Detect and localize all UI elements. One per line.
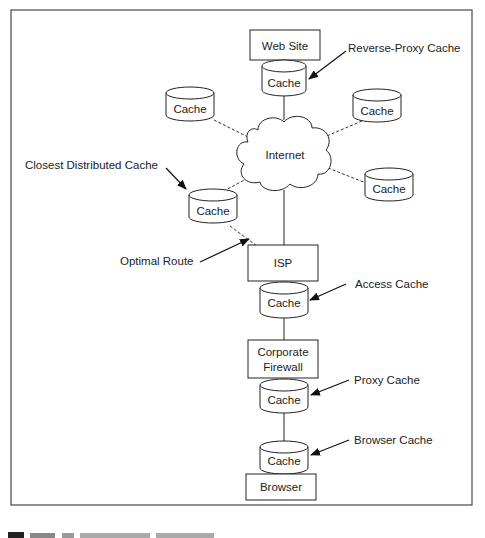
- peer-cache-top-left-icon: Cache: [166, 87, 214, 121]
- access-cache-label: Cache: [267, 297, 300, 309]
- corporate-firewall-label-line2: Firewall: [263, 361, 303, 373]
- closest-distributed-cache-icon: Cache: [189, 189, 237, 223]
- closest-cache-label: Cache: [196, 205, 229, 217]
- isp-label: ISP: [274, 257, 293, 269]
- figure-caption: [8, 532, 214, 538]
- corporate-firewall-label-line1: Corporate: [257, 346, 308, 358]
- figure-frame: [11, 10, 472, 505]
- internet-label: Internet: [266, 149, 306, 161]
- peer-cache-right-label: Cache: [372, 183, 405, 195]
- proxy-cache-annotation: Proxy Cache: [354, 374, 420, 386]
- reverse-proxy-cache-annotation: Reverse-Proxy Cache: [348, 42, 460, 54]
- caching-diagram: Web Site Cache Cache Cache Cache Cache I…: [0, 0, 485, 538]
- browser-cache-label: Cache: [267, 455, 300, 467]
- peer-cache-top-right-label: Cache: [360, 105, 393, 117]
- browser-cache-annotation: Browser Cache: [354, 434, 433, 446]
- peer-cache-right-icon: Cache: [365, 168, 413, 201]
- web-site-node: Web Site: [250, 30, 320, 60]
- browser-label: Browser: [260, 481, 302, 493]
- corporate-firewall-node: Corporate Firewall: [248, 340, 318, 378]
- proxy-cache-icon: Cache: [260, 379, 308, 413]
- web-site-label: Web Site: [262, 40, 308, 52]
- proxy-cache-label: Cache: [267, 394, 300, 406]
- access-cache-icon: Cache: [260, 282, 308, 318]
- peer-cache-top-left-label: Cache: [173, 103, 206, 115]
- access-cache-annotation: Access Cache: [355, 278, 429, 290]
- browser-cache-icon: Cache: [260, 441, 308, 474]
- reverse-proxy-cache-icon: Cache: [262, 60, 306, 96]
- optimal-route-annotation: Optimal Route: [120, 255, 194, 267]
- browser-node: Browser: [246, 474, 316, 500]
- internet-cloud-icon: Internet: [237, 116, 331, 190]
- closest-distributed-cache-annotation: Closest Distributed Cache: [25, 159, 158, 171]
- reverse-proxy-cache-label: Cache: [267, 77, 300, 89]
- isp-node: ISP: [248, 245, 318, 281]
- peer-cache-top-right-icon: Cache: [353, 89, 401, 122]
